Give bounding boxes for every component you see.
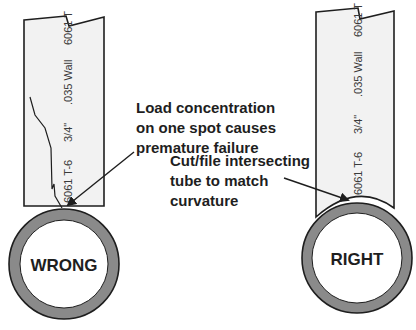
wrong-tube-label-2: 3/4" [62, 123, 74, 142]
right-tube-label-3: .035 Wall [352, 52, 364, 97]
wrong-callout-line-2: on one spot causes [136, 119, 276, 136]
wrong-tube-label-4: 6061 T [62, 11, 74, 45]
right-callout-line-2: tube to match [170, 172, 268, 189]
wrong-tube-label-3: .035 Wall [62, 60, 74, 105]
right-tube-label-4: 6061 T [352, 3, 364, 37]
right-ring-label: RIGHT [331, 250, 385, 269]
right-callout-line-1: Cut/file intersecting [170, 152, 310, 169]
tube-joint-diagram: 6061 T-6 3/4" .035 Wall 6061 T WRONG Loa… [0, 0, 416, 330]
right-example: 6061 T-6 3/4" .035 Wall 6061 T RIGHT Cut… [170, 3, 412, 313]
wrong-tube-label-1: 6061 T-6 [62, 160, 74, 203]
right-callout-line-3: curvature [170, 192, 238, 209]
wrong-ring-label: WRONG [30, 256, 97, 275]
right-tube-label-1: 6061 T-6 [352, 152, 364, 195]
right-tube-label-2: 3/4" [352, 115, 364, 134]
wrong-callout-line-1: Load concentration [136, 99, 275, 116]
